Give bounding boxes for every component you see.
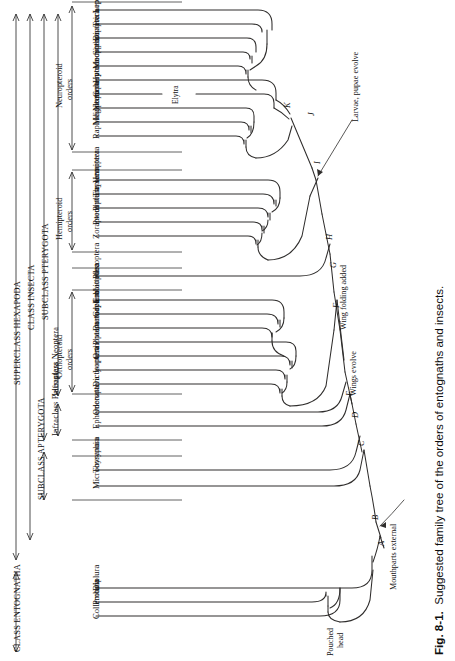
node-label-C: C <box>358 440 366 446</box>
bracket-label-subclass-pterygota: SUBCLASS PTERYGOTA <box>42 223 50 320</box>
node-label-G: G <box>330 262 338 268</box>
annotation-wing-folding-added: Wing folding added <box>340 265 348 330</box>
node-label-B: B <box>372 515 380 520</box>
annotation-larvae-pupae-evolve: Larvae, pupae evolve <box>352 52 360 122</box>
node-label-I: I <box>314 161 322 164</box>
node-label-D: D <box>352 412 360 418</box>
order-label-microcoryphia: Microcoryphia <box>92 438 101 489</box>
order-label-ephemeroptera: Ephemeroptera <box>92 377 101 430</box>
bracket-label-class-insecta: CLASS INSECTA <box>28 265 36 330</box>
bracket-label-class-entognatha: CLASS ENTOGNATHA <box>14 564 22 652</box>
bracket-label-orthopteroid-line1: Orthopteroid <box>56 335 65 378</box>
bracket-label-orthopteroid-line2: orders <box>66 349 75 370</box>
bracket-label-hemipteroid-line2: orders <box>66 211 75 232</box>
order-label-zoraptera: Zoraptera <box>92 206 101 239</box>
bracket-label-subclass-apterygota: SUBCLASS APTERYGOTA <box>38 398 46 501</box>
order-label-raphidioptera: Raphidioptera <box>92 91 101 140</box>
node-label-J: J <box>308 112 316 116</box>
bracket-label-subclass-apterygota-line1: SUBCLASS APTERYGOTA <box>37 398 46 501</box>
figure-caption-block: Fig. 8-1. Suggested family tree of the o… <box>418 0 455 661</box>
node-label-A: A <box>378 541 386 546</box>
bracket-label-hemipteroid-line1: Hemipteroid <box>56 198 65 240</box>
annotation-pouched-head-line2: head <box>337 633 346 648</box>
figure-panel: LepidopteraTrichopteraDipteraSiphonapter… <box>0 0 455 661</box>
annotation-pouched-head-line1: Pouched <box>327 628 336 656</box>
figure-number: Fig. 8-1. <box>432 611 445 655</box>
figure-caption-line: Fig. 8-1. Suggested family tree of the o… <box>432 286 445 655</box>
annotation-wings-evolve: Wings evolve <box>350 351 358 396</box>
annotation-elytra: Elytra <box>172 85 180 104</box>
annotation-mouthparts-external: Mouthparts external <box>390 524 398 590</box>
node-label-K: K <box>284 102 292 108</box>
bracket-label-neuropteroid-line1: Neuropteroid <box>56 63 65 108</box>
node-label-H: H <box>326 234 334 240</box>
bracket-label-neuropteroid-line2: orders <box>66 79 75 100</box>
bracket-label-superclass-hexapoda: SUPERCLASS HEXAPODA <box>14 281 22 385</box>
order-label-collembola: Collembola <box>92 579 101 619</box>
figure-caption-text: Suggested family tree of the orders of e… <box>432 286 445 605</box>
